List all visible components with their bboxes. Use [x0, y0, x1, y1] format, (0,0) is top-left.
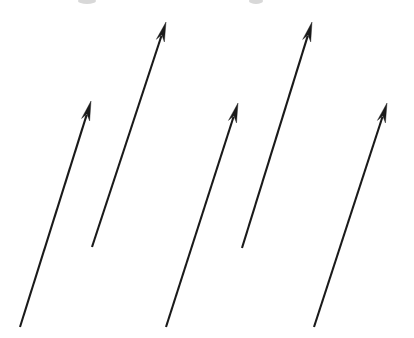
figure-background	[0, 0, 414, 338]
arrow-diagram	[0, 0, 414, 338]
figure-canvas	[0, 0, 414, 338]
